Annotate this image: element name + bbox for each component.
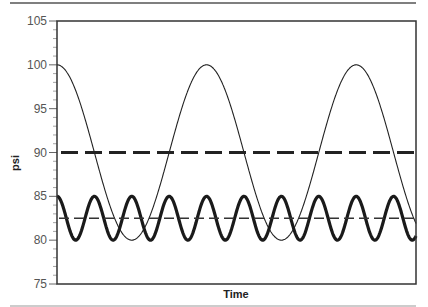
y-axis-title: psi: [9, 155, 21, 171]
y-tick-label: 105: [27, 14, 47, 28]
chart: 7580859095100105 psi Time: [0, 0, 428, 307]
y-tick-label: 85: [34, 189, 48, 203]
y-tick-label: 80: [34, 233, 48, 247]
y-tick-label: 100: [27, 58, 47, 72]
y-tick-label: 95: [34, 102, 48, 116]
x-axis-title: Time: [223, 288, 248, 300]
y-tick-label: 75: [34, 277, 48, 291]
y-axis-ticks: 7580859095100105: [27, 14, 57, 291]
series-group: [57, 65, 416, 240]
y-tick-label: 90: [34, 146, 48, 160]
